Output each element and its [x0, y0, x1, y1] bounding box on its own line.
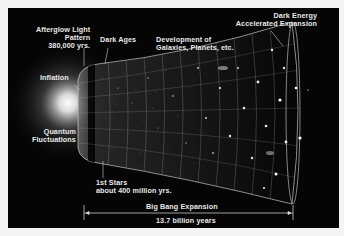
first-stars-label: 1st Stars about 400 million yrs.	[96, 179, 172, 195]
inflation-label: Inflation	[40, 74, 69, 82]
expansion-label: Big Bang Expansion	[146, 203, 218, 211]
afterglow-label: Afterglow Light Pattern 380,000 yrs.	[36, 26, 90, 50]
cut-off-caption	[8, 231, 339, 236]
dark-energy-label: Dark Energy Accelerated Expansion	[236, 12, 317, 28]
dark-ages-label: Dark Ages	[100, 36, 136, 44]
universe-timeline-diagram: Afterglow Light Pattern 380,000 yrs. Dar…	[8, 8, 339, 228]
quantum-fluctuations-label: Quantum Fluctuations	[32, 128, 76, 144]
development-label: Development of Galaxies, Planets, etc.	[156, 36, 234, 52]
duration-label: 13.7 billion years	[156, 217, 216, 225]
